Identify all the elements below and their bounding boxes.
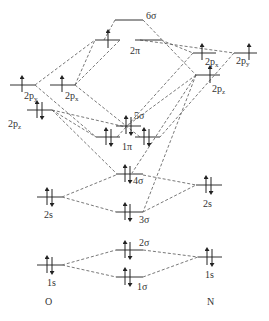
label-6sigma: 6σ (146, 10, 157, 21)
labels: 2py 2px 2pz 2s 1s 2px 2py 2pz 2s 1s 6σ 2… (8, 10, 250, 307)
energy-levels (10, 20, 257, 277)
label-N-1s: 1s (205, 269, 214, 280)
label-O-2s: 2s (44, 209, 53, 220)
label-2pi: 2π (130, 45, 140, 56)
label-N-2px: 2px (205, 56, 219, 69)
label-O-2py: 2py (24, 90, 38, 103)
label-N-2py: 2py (236, 55, 250, 68)
label-N-2s: 2s (203, 198, 212, 209)
label-N-2pz: 2pz (212, 83, 225, 96)
mo-diagram: 2py 2px 2pz 2s 1s 2px 2py 2pz 2s 1s 6σ 2… (0, 0, 269, 321)
label-2sigma: 2σ (139, 237, 150, 248)
label-1sigma: 1σ (137, 281, 148, 292)
label-5sigma: 5σ (134, 110, 145, 121)
label-3sigma: 3σ (139, 214, 150, 225)
label-O-2px: 2px (65, 90, 79, 103)
label-1pi: 1π (122, 141, 132, 152)
atom-label-O: O (45, 296, 52, 307)
label-O-1s: 1s (47, 277, 56, 288)
atom-label-N: N (207, 296, 214, 307)
label-4sigma: 4σ (133, 175, 144, 186)
label-O-2pz: 2pz (8, 118, 21, 131)
